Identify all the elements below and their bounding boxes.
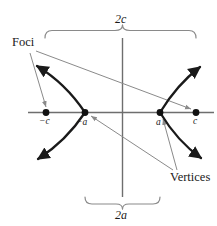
neg-a-tick-label: −a bbox=[76, 118, 87, 128]
foci-label: Foci bbox=[12, 36, 34, 49]
pos-a-tick-label: a bbox=[156, 118, 161, 128]
brace-2c bbox=[45, 25, 196, 38]
vertices-label: Vertices bbox=[170, 171, 210, 184]
vertices-leader-lines bbox=[91, 116, 177, 170]
hyperbola-diagram-svg bbox=[0, 0, 217, 226]
focus-point-pos-c bbox=[193, 109, 200, 116]
two-a-label: 2a bbox=[115, 209, 127, 221]
neg-c-tick-label: −c bbox=[39, 117, 50, 127]
vertex-point-pos-a bbox=[157, 109, 164, 116]
vertex-point-neg-a bbox=[82, 109, 89, 116]
focus-point-neg-c bbox=[43, 109, 50, 116]
hyperbola-figure: Foci Vertices 2c 2a −c −a a c bbox=[0, 0, 217, 226]
foci-leader-to-neg-c bbox=[30, 53, 46, 107]
two-c-label: 2c bbox=[115, 13, 126, 25]
pos-c-tick-label: c bbox=[193, 117, 197, 127]
